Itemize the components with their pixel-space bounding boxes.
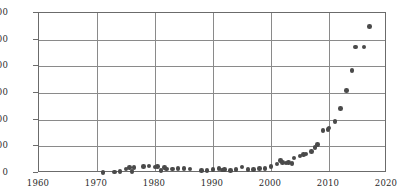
data-point	[170, 167, 175, 172]
data-point	[164, 167, 169, 172]
data-point	[176, 166, 181, 171]
data-point	[222, 167, 227, 172]
y-tick-label: 1000	[0, 34, 8, 44]
x-tick-label: 1980	[129, 178, 179, 188]
data-point	[269, 164, 274, 169]
data-point	[141, 164, 146, 169]
data-point	[112, 170, 117, 175]
y-tick-label: 800	[0, 60, 8, 70]
data-point	[251, 167, 256, 172]
data-point	[350, 68, 355, 73]
data-point	[327, 126, 332, 131]
x-tick-label: 1960	[13, 178, 63, 188]
y-tick-label: 200	[0, 140, 8, 150]
y-axis-tick	[33, 172, 38, 173]
x-tick-label: 2000	[245, 178, 295, 188]
data-point	[304, 152, 309, 157]
data-point	[211, 167, 216, 172]
data-point	[199, 168, 204, 173]
data-point	[353, 45, 358, 50]
plot-area	[38, 12, 386, 172]
data-point	[309, 149, 314, 154]
x-tick-label: 2020	[361, 178, 403, 188]
scatter-chart: 0 200 400 600 800 1000 1200 1960 1970 19…	[0, 0, 403, 196]
data-point	[315, 142, 320, 147]
data-point	[101, 170, 106, 175]
data-point	[234, 167, 239, 172]
data-point	[246, 167, 251, 172]
data-point	[263, 166, 268, 171]
y-tick-label: 400	[0, 114, 8, 124]
x-tick-label: 1990	[187, 178, 237, 188]
data-point	[118, 169, 123, 174]
data-point	[182, 166, 187, 171]
y-tick-label: 0	[0, 167, 8, 177]
data-point	[147, 164, 152, 169]
data-point	[333, 119, 338, 124]
data-point	[321, 128, 326, 133]
y-tick-label: 600	[0, 87, 8, 97]
data-point	[132, 165, 137, 170]
data-point	[367, 24, 372, 29]
data-point	[240, 165, 245, 170]
data-point	[228, 168, 233, 173]
data-point	[188, 167, 193, 172]
x-tick-label: 2010	[303, 178, 353, 188]
y-tick-label: 1200	[0, 7, 8, 17]
data-points-layer	[39, 13, 385, 171]
data-point	[292, 156, 297, 161]
data-point	[290, 161, 295, 166]
data-point	[362, 45, 367, 50]
data-point	[205, 168, 210, 173]
data-point	[338, 106, 343, 111]
data-point	[344, 88, 349, 93]
data-point	[257, 166, 262, 171]
x-tick-label: 1970	[71, 178, 121, 188]
